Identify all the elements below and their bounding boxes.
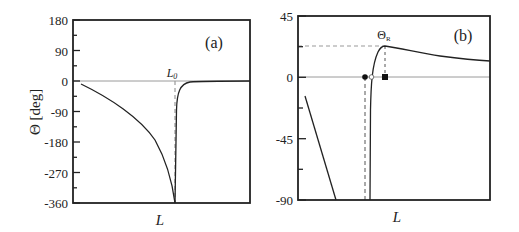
lo-label: L0 <box>166 66 178 81</box>
y-tick-label-b: 45 <box>280 9 293 24</box>
x-axis-label-a: L <box>155 212 164 228</box>
y-tick-label-b: 0 <box>287 70 294 85</box>
panel-label-b: (b) <box>454 27 473 45</box>
x-axis-label-b: L <box>392 209 401 225</box>
marker-filled-circle <box>362 74 368 80</box>
y-tick-label-a: -90 <box>51 105 68 120</box>
plot-frame-a <box>73 20 250 203</box>
marker-filled-square <box>382 74 388 80</box>
panel-a: 180 90 0 -90 -180 -270 -360 Θ [deg] L (a… <box>27 13 250 228</box>
y-tick-label-a: 90 <box>55 44 68 59</box>
curve-a-right <box>175 81 250 203</box>
theta-r-label: ΘR <box>377 28 391 43</box>
y-tick-label-a: 180 <box>49 13 69 28</box>
y-tick-label-b: -45 <box>276 132 293 147</box>
y-tick-label-b: -90 <box>276 193 293 208</box>
panel-label-a: (a) <box>205 34 223 52</box>
curve-b-right <box>370 46 490 200</box>
marker-open-circle <box>369 75 374 80</box>
panel-b: 45 0 -45 -90 L (b) ΘR <box>276 9 490 225</box>
figure: 180 90 0 -90 -180 -270 -360 Θ [deg] L (a… <box>0 0 519 232</box>
y-tick-label-a: -270 <box>44 166 68 181</box>
y-tick-label-a: 0 <box>62 74 69 89</box>
y-tick-label-a: -360 <box>44 196 68 211</box>
y-ticks-a <box>73 20 80 203</box>
y-axis-label-a: Θ [deg] <box>27 89 43 135</box>
curve-b-left <box>305 96 336 200</box>
y-tick-label-a: -180 <box>44 135 68 150</box>
y-ticks-b <box>298 16 306 200</box>
curve-a-left <box>81 84 175 203</box>
